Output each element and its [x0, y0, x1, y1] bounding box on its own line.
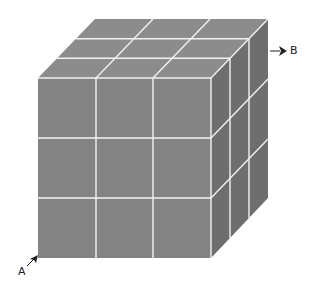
cube-front-face — [38, 78, 211, 258]
arrow-a-icon — [27, 255, 38, 266]
cube-diagram — [0, 0, 316, 295]
arrow-b-icon — [270, 46, 287, 56]
label-b: B — [290, 45, 298, 56]
label-a: A — [18, 266, 26, 277]
